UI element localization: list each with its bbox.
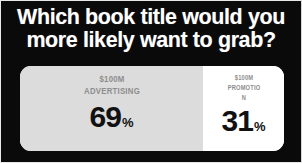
page-title-line-2: more likely want to grab? (1, 29, 301, 52)
page-title-line-1: Which book title would you (1, 6, 301, 29)
poll-option-promotion-label-line-2: PROMOTIO N (225, 83, 263, 103)
poll-graphic: Which book title would you more likely w… (0, 0, 302, 163)
poll-option-advertising-label: $100M ADVERTISING (54, 73, 169, 97)
poll-option-promotion-label-line-1: $100M (225, 73, 263, 83)
poll-option-advertising[interactable]: $100M ADVERTISING 69 % (20, 66, 203, 151)
poll-option-advertising-value: 69 % (90, 102, 134, 132)
poll-option-advertising-label-line-2: ADVERTISING (54, 85, 169, 97)
poll-option-promotion-value: 31 % (222, 106, 266, 136)
poll-option-promotion[interactable]: $100M PROMOTIO N 31 % (203, 66, 284, 151)
poll-option-advertising-percent-unit: % (122, 116, 134, 129)
poll-option-promotion-percent-unit: % (254, 120, 266, 133)
poll-option-advertising-label-line-1: $100M (54, 73, 169, 85)
poll-option-promotion-percent-number: 31 (222, 106, 253, 136)
poll-option-advertising-percent-number: 69 (90, 102, 121, 132)
poll-results-bar: $100M ADVERTISING 69 % $100M PROMOTIO N … (20, 66, 284, 151)
poll-option-promotion-label: $100M PROMOTIO N (225, 73, 263, 103)
page-title: Which book title would you more likely w… (1, 6, 301, 52)
